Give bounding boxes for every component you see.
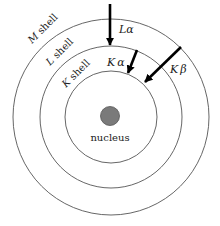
l-alpha-label: Lα	[118, 23, 134, 36]
m-shell-label: M shell	[25, 11, 60, 46]
nucleus-label: nucleus	[90, 132, 129, 143]
k-shell-label: K shell	[59, 57, 92, 90]
k-alpha-label: Kα	[106, 56, 125, 69]
atom-diagram: nucleus M shell L shell K shell Lα Kα Kβ	[0, 0, 220, 226]
k-alpha-arrow	[128, 50, 137, 73]
k-beta-label: Kβ	[169, 63, 187, 76]
nucleus-icon	[101, 107, 120, 126]
l-shell-label: L shell	[43, 36, 75, 68]
